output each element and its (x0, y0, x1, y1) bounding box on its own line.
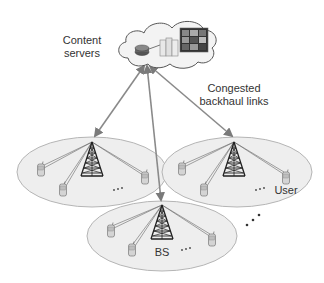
user-label: User (272, 184, 300, 197)
backhaul-label-line2: backhaul links (190, 95, 278, 108)
content-servers-label: Content servers (62, 34, 102, 60)
server-rack-icon (160, 38, 178, 56)
content-servers-label-line2: servers (62, 47, 102, 60)
backhaul-link-left (95, 66, 144, 136)
content-cloud (119, 21, 216, 68)
backhaul-label-line1: Congested (190, 82, 278, 95)
content-servers-label-line1: Content (62, 34, 102, 47)
video-content-icon (180, 28, 208, 52)
bs-label: BS (152, 246, 172, 259)
network-diagram (0, 0, 324, 283)
router-icon (135, 45, 149, 56)
more-cells-dots (246, 214, 261, 227)
backhaul-links-label: Congested backhaul links (190, 82, 278, 108)
